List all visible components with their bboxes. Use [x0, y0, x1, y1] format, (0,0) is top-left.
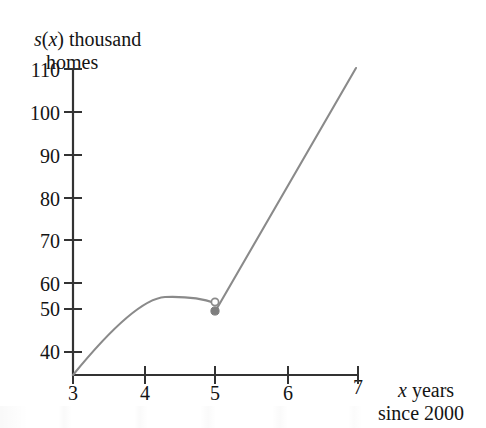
piecewise-function-chart: s(x) thousandhomes x yearssince 2000 110… [0, 0, 486, 428]
parabolic-curve-segment [73, 297, 215, 375]
linear-curve-segment [216, 68, 356, 310]
filled-circle-marker [211, 307, 219, 315]
open-circle-marker [211, 298, 218, 305]
plot-area [0, 0, 486, 428]
